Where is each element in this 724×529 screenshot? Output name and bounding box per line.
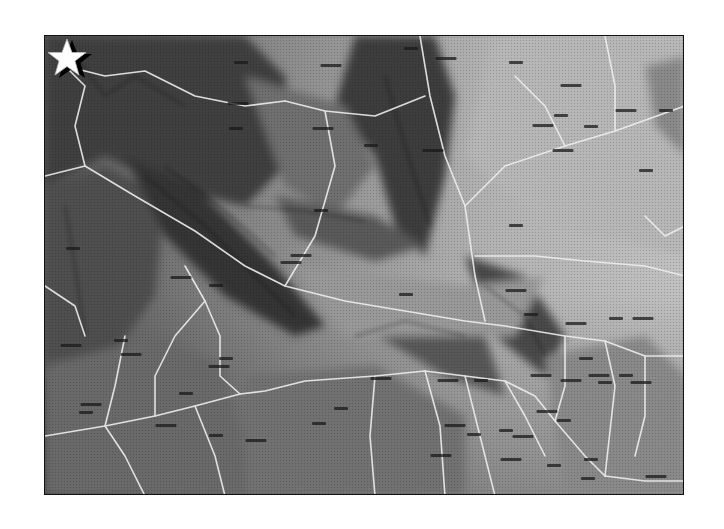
place-label bbox=[321, 64, 342, 67]
place-label bbox=[646, 475, 667, 478]
place-label bbox=[79, 411, 93, 414]
place-label bbox=[499, 429, 513, 432]
place-label bbox=[423, 149, 444, 152]
place-label bbox=[179, 392, 193, 395]
place-label bbox=[66, 247, 80, 250]
place-label bbox=[229, 127, 243, 130]
place-label bbox=[399, 293, 413, 296]
place-label bbox=[404, 47, 418, 50]
place-label bbox=[633, 317, 654, 320]
place-label bbox=[509, 224, 523, 227]
place-label bbox=[589, 374, 610, 377]
place-label bbox=[584, 458, 598, 461]
place-label bbox=[209, 365, 230, 368]
place-label bbox=[561, 379, 582, 382]
place-label bbox=[209, 434, 223, 437]
place-label bbox=[557, 419, 571, 422]
place-label bbox=[639, 169, 653, 172]
place-label bbox=[537, 410, 558, 413]
place-label bbox=[281, 261, 302, 264]
place-label bbox=[554, 114, 568, 117]
place-label bbox=[501, 458, 522, 461]
place-label bbox=[156, 424, 177, 427]
place-label bbox=[209, 284, 223, 287]
place-label bbox=[631, 381, 652, 384]
place-label bbox=[445, 424, 466, 427]
place-label bbox=[659, 109, 673, 112]
place-label bbox=[313, 127, 334, 130]
place-label bbox=[291, 254, 312, 257]
place-label bbox=[609, 317, 623, 320]
place-label bbox=[171, 276, 192, 279]
place-label bbox=[566, 322, 587, 325]
place-label bbox=[524, 313, 538, 316]
place-label bbox=[314, 209, 328, 212]
place-label bbox=[219, 357, 233, 360]
place-label bbox=[579, 357, 593, 360]
place-label bbox=[598, 381, 612, 384]
place-label bbox=[438, 379, 459, 382]
place-label bbox=[509, 61, 523, 64]
place-label bbox=[234, 61, 248, 64]
place-label bbox=[547, 464, 561, 467]
star-icon[interactable] bbox=[45, 36, 93, 82]
place-label bbox=[312, 422, 326, 425]
place-label bbox=[436, 57, 457, 60]
place-label bbox=[371, 377, 392, 380]
place-label bbox=[513, 435, 534, 438]
place-label bbox=[619, 374, 633, 377]
place-label bbox=[506, 289, 527, 292]
place-label bbox=[228, 102, 249, 105]
place-label bbox=[533, 124, 554, 127]
place-label bbox=[616, 109, 637, 112]
place-label bbox=[474, 379, 488, 382]
place-label bbox=[246, 439, 267, 442]
place-label bbox=[61, 344, 82, 347]
place-label bbox=[121, 353, 142, 356]
shaded-relief-map[interactable] bbox=[45, 36, 684, 495]
place-label bbox=[431, 454, 452, 457]
place-label bbox=[584, 125, 598, 128]
place-label bbox=[114, 339, 128, 342]
place-label bbox=[81, 403, 102, 406]
place-label bbox=[531, 374, 552, 377]
place-label bbox=[334, 407, 348, 410]
place-label bbox=[581, 477, 595, 480]
place-label bbox=[553, 149, 574, 152]
place-label bbox=[561, 84, 582, 87]
place-label bbox=[467, 433, 481, 436]
map-frame[interactable] bbox=[44, 35, 684, 495]
place-label bbox=[364, 144, 378, 147]
